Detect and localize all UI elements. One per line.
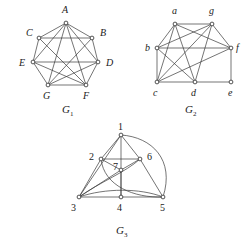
vertex-label-F: F — [82, 90, 90, 101]
vertex-f[interactable] — [229, 46, 233, 50]
vertex-label-e: e — [228, 87, 233, 98]
graph-g1: A B C D E F G G 1 — [18, 4, 114, 118]
vertex-A[interactable] — [64, 21, 68, 25]
vertex-label-f: f — [236, 42, 240, 53]
vertex-label-d: d — [191, 87, 197, 98]
vertex-2[interactable] — [99, 157, 103, 161]
edge-1-2 — [101, 135, 121, 159]
g1-caption: G 1 — [62, 103, 74, 118]
caption-subscript-g3: 3 — [124, 231, 128, 239]
vertex-c[interactable] — [155, 80, 159, 84]
vertex-label-2: 2 — [89, 151, 94, 162]
vertex-label-E: E — [18, 57, 25, 68]
g2-caption: G 2 — [185, 103, 197, 118]
vertex-label-A: A — [61, 4, 69, 15]
edge-D-F — [86, 62, 98, 85]
caption-subscript-g2: 2 — [193, 110, 197, 118]
vertex-label-c: c — [153, 87, 158, 98]
vertex-1[interactable] — [119, 133, 123, 137]
vertex-label-g: g — [209, 5, 214, 16]
vertex-label-G: G — [43, 90, 50, 101]
vertex-label-6: 6 — [147, 151, 152, 162]
vertex-5[interactable] — [161, 195, 165, 199]
vertex-label-D: D — [105, 57, 114, 68]
vertex-label-7: 7 — [113, 161, 118, 172]
g3-caption: G 3 — [116, 224, 128, 239]
g3-edges — [79, 135, 166, 197]
g2-vertices — [155, 22, 233, 84]
caption-subscript-g1: 1 — [70, 110, 74, 118]
vertex-D[interactable] — [96, 60, 100, 64]
vertex-C[interactable] — [37, 36, 41, 40]
vertex-label-3: 3 — [71, 202, 76, 213]
vertex-label-a: a — [172, 5, 177, 16]
edge-D-G — [48, 62, 98, 85]
graph-g3: 1 2 6 7 3 4 5 G 3 — [71, 121, 166, 239]
vertex-6[interactable] — [138, 157, 142, 161]
vertex-7[interactable] — [119, 168, 123, 172]
vertex-e[interactable] — [229, 80, 233, 84]
edge-f-c — [157, 48, 231, 82]
vertex-label-B: B — [100, 27, 106, 38]
vertex-4[interactable] — [119, 195, 123, 199]
vertex-d[interactable] — [193, 80, 197, 84]
vertex-g[interactable] — [210, 22, 214, 26]
graphs-canvas: A B C D E F G G 1 — [0, 0, 246, 242]
vertex-3[interactable] — [77, 195, 81, 199]
graph-figure: A B C D E F G G 1 — [0, 0, 246, 242]
vertex-G[interactable] — [46, 83, 50, 87]
g3-labels: 1 2 6 7 3 4 5 — [71, 121, 165, 213]
edge-1-6 — [121, 135, 140, 159]
vertex-label-b: b — [145, 42, 150, 53]
vertex-label-4: 4 — [117, 202, 122, 213]
vertex-E[interactable] — [31, 60, 35, 64]
graph-g2: a g b f c d e G 2 — [145, 5, 240, 118]
vertex-label-C: C — [26, 27, 33, 38]
edge-6-7 — [121, 159, 140, 170]
g2-labels: a g b f c d e — [145, 5, 240, 98]
caption-letter-g2: G — [185, 103, 193, 115]
g2-edges — [157, 24, 231, 82]
edge-g-f — [212, 24, 231, 48]
edge-2-3 — [79, 159, 101, 197]
caption-letter-g1: G — [62, 103, 70, 115]
edge-a-c — [157, 24, 175, 82]
vertex-label-5: 5 — [160, 202, 165, 213]
vertex-b[interactable] — [155, 46, 159, 50]
vertex-F[interactable] — [84, 83, 88, 87]
caption-letter-g3: G — [116, 224, 124, 236]
edge-E-F — [33, 62, 86, 85]
edge-2-7 — [101, 159, 121, 170]
edge-6-5 — [140, 159, 163, 197]
g1-edges — [33, 23, 98, 85]
vertex-label-1: 1 — [118, 121, 123, 132]
vertex-a[interactable] — [173, 22, 177, 26]
vertex-B[interactable] — [90, 36, 94, 40]
g1-labels: A B C D E F G — [18, 4, 114, 101]
